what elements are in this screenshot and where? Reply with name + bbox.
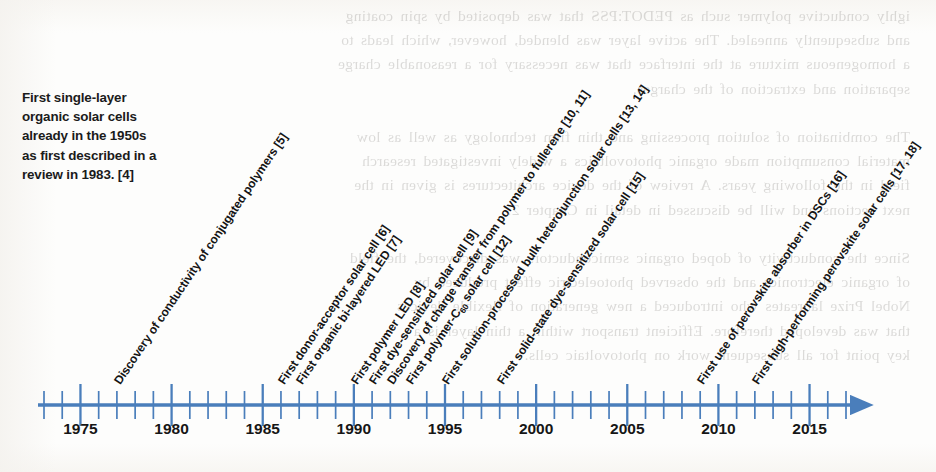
axis-tick-label: 2010 bbox=[701, 420, 735, 438]
axis-tick-label: 2005 bbox=[610, 420, 644, 438]
callout-note: First single-layer organic solar cells a… bbox=[22, 88, 197, 184]
callout-note-line: already in the 1950s bbox=[22, 126, 197, 145]
callout-note-line: review in 1983. [4] bbox=[22, 165, 197, 184]
axis-tick-label: 1990 bbox=[337, 420, 371, 438]
axis-tick-label: 2000 bbox=[519, 420, 553, 438]
callout-note-line: First single-layer bbox=[22, 88, 197, 107]
axis-tick-label: 1985 bbox=[245, 420, 279, 438]
axis-tick-label: 2015 bbox=[792, 420, 826, 438]
callout-note-line: as first described in a bbox=[22, 146, 197, 165]
callout-note-line: organic solar cells bbox=[22, 107, 197, 126]
axis-tick-label: 1980 bbox=[154, 420, 188, 438]
axis-tick-label: 1975 bbox=[63, 420, 97, 438]
axis-tick-label: 1995 bbox=[428, 420, 462, 438]
